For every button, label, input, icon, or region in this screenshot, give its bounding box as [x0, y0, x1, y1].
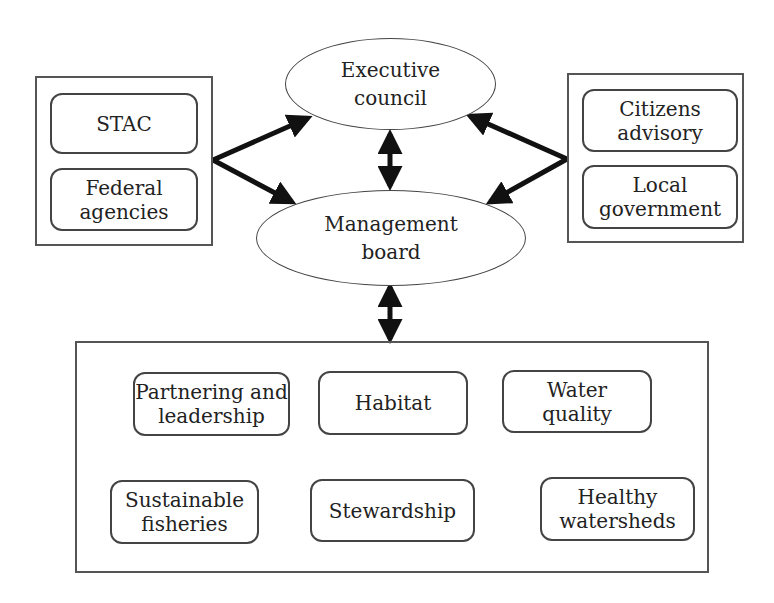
- node-label: STAC: [96, 112, 152, 136]
- node-partnering-leadership: Partnering and leadership: [133, 372, 290, 436]
- node-label: Healthy watersheds: [559, 485, 676, 533]
- node-label: Water quality: [542, 378, 612, 426]
- node-water-quality: Water quality: [502, 370, 652, 433]
- node-federal-agencies: Federal agencies: [50, 168, 198, 231]
- node-citizens-advisory: Citizens advisory: [582, 89, 738, 152]
- node-label: Partnering and leadership: [135, 380, 287, 428]
- node-management-board: Management board: [256, 190, 526, 286]
- arrow-right-to-management: [490, 159, 567, 202]
- node-label: Sustainable fisheries: [125, 488, 244, 536]
- arrow-left-to-executive: [213, 118, 308, 160]
- node-local-government: Local government: [582, 165, 738, 229]
- node-stewardship: Stewardship: [310, 479, 475, 542]
- node-label: Executive council: [341, 56, 440, 112]
- arrow-right-to-executive: [470, 116, 567, 159]
- node-label: Stewardship: [329, 499, 456, 523]
- node-label: Citizens advisory: [617, 97, 703, 145]
- node-label: Habitat: [355, 391, 432, 415]
- node-label: Federal agencies: [79, 176, 168, 224]
- node-executive-council: Executive council: [285, 38, 496, 130]
- node-label: Management board: [324, 210, 458, 266]
- node-label: Local government: [599, 173, 721, 221]
- node-healthy-watersheds: Healthy watersheds: [540, 477, 695, 541]
- arrow-left-to-management: [213, 160, 292, 202]
- node-sustainable-fisheries: Sustainable fisheries: [110, 480, 259, 544]
- node-habitat: Habitat: [318, 371, 468, 435]
- node-stac: STAC: [50, 93, 198, 154]
